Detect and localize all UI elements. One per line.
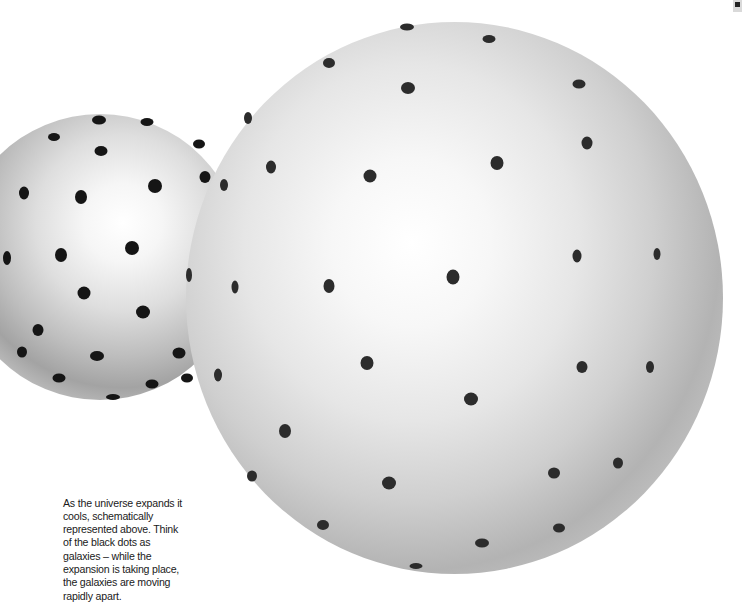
galaxy-dot — [464, 393, 478, 406]
galaxy-dot — [279, 424, 291, 438]
galaxy-dot — [582, 137, 593, 150]
large-sphere — [186, 22, 723, 574]
galaxy-dot — [78, 287, 91, 300]
galaxy-dot — [106, 394, 120, 400]
galaxy-dot — [400, 24, 414, 31]
galaxy-dot — [266, 161, 276, 174]
galaxy-dot — [3, 251, 11, 265]
galaxy-dot — [186, 268, 192, 282]
galaxy-dot — [364, 170, 377, 183]
galaxy-dot — [324, 279, 335, 293]
galaxy-dot — [232, 281, 239, 294]
galaxy-dot — [17, 347, 27, 358]
galaxy-dot — [475, 539, 489, 548]
galaxy-dot — [92, 116, 106, 125]
galaxy-dot — [19, 187, 29, 200]
galaxy-dot — [361, 356, 374, 370]
galaxy-dot — [573, 250, 582, 263]
galaxy-dot — [317, 520, 329, 530]
galaxy-dot — [141, 118, 154, 126]
galaxy-dot — [220, 179, 228, 191]
galaxy-dot — [483, 35, 496, 43]
galaxy-dot — [90, 351, 104, 361]
galaxy-dot — [548, 468, 560, 479]
galaxy-dot — [48, 133, 60, 141]
galaxy-dot — [173, 348, 186, 359]
galaxy-dot — [214, 369, 222, 382]
galaxy-dot — [95, 146, 108, 156]
galaxy-dot — [491, 156, 504, 170]
galaxy-dot — [323, 58, 335, 68]
galaxy-dot — [125, 241, 139, 255]
galaxy-dot — [573, 80, 586, 89]
galaxy-dot — [646, 361, 654, 373]
galaxy-dot — [613, 458, 623, 469]
galaxy-dot — [75, 190, 87, 204]
figure-caption: As the universe expands it cools, schema… — [63, 497, 188, 603]
galaxy-dot — [382, 477, 396, 490]
galaxy-dot — [146, 380, 159, 389]
galaxy-dot — [193, 140, 205, 149]
galaxy-dot — [553, 524, 565, 533]
galaxy-dot — [53, 374, 66, 383]
galaxy-dot — [55, 248, 67, 262]
galaxy-dot — [410, 563, 423, 569]
galaxy-dot — [148, 179, 162, 193]
page-corner-mark-icon — [733, 0, 742, 12]
galaxy-dot — [654, 248, 661, 260]
galaxy-dot — [401, 82, 415, 94]
galaxy-dot — [200, 171, 211, 183]
galaxy-dot — [447, 270, 460, 285]
galaxy-dot — [247, 471, 257, 482]
galaxy-dot — [181, 374, 193, 383]
galaxy-dot — [136, 306, 150, 319]
galaxy-dot — [244, 112, 252, 124]
galaxy-dot — [577, 361, 588, 373]
galaxy-dot — [33, 324, 44, 336]
